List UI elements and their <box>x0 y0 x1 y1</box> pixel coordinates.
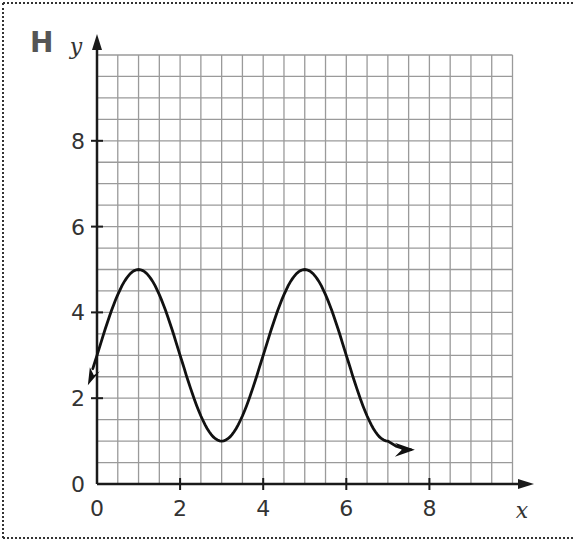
x-tick-label: 4 <box>256 496 270 521</box>
curve-end-arrow-icon <box>395 443 415 457</box>
y-tick-label: 6 <box>71 215 85 240</box>
y-axis-label: y <box>69 34 83 59</box>
tick-labels: 0246802468xy <box>69 34 529 523</box>
sinusoid-curve <box>88 270 415 457</box>
curve-path <box>93 270 411 450</box>
x-axis-label: x <box>516 498 529 523</box>
y-axis-arrow-icon <box>92 34 102 50</box>
y-tick-label: 2 <box>71 386 85 411</box>
axes <box>91 34 534 490</box>
figure-frame: H 0246802468xy <box>0 0 573 541</box>
x-tick-label: 6 <box>339 496 353 521</box>
x-tick-label: 8 <box>422 496 436 521</box>
graph: 0246802468xy <box>0 0 573 541</box>
x-tick-label: 2 <box>173 496 187 521</box>
x-tick-label: 0 <box>90 496 104 521</box>
y-tick-label: 4 <box>71 300 85 325</box>
x-axis-arrow-icon <box>518 479 534 489</box>
y-tick-label: 8 <box>71 129 85 154</box>
y-tick-label: 0 <box>71 472 85 497</box>
